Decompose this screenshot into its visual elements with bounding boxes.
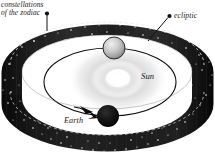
zodiac-ecliptic-diagram: constellations of the zodiac ecliptic Su… (0, 0, 215, 155)
zodiac-leader-dot (45, 11, 49, 15)
earth-sphere (97, 105, 119, 127)
label-sun: Sun (141, 72, 154, 81)
diagram-canvas (0, 0, 215, 155)
label-zodiac-line2: of the zodiac (1, 9, 43, 17)
zodiac-position-sphere (103, 37, 125, 59)
label-ecliptic: ecliptic (174, 12, 197, 20)
label-earth: Earth (64, 117, 83, 126)
ecliptic-leader-dot (167, 14, 171, 18)
label-constellations-of-the-zodiac: constellations of the zodiac (1, 1, 43, 17)
